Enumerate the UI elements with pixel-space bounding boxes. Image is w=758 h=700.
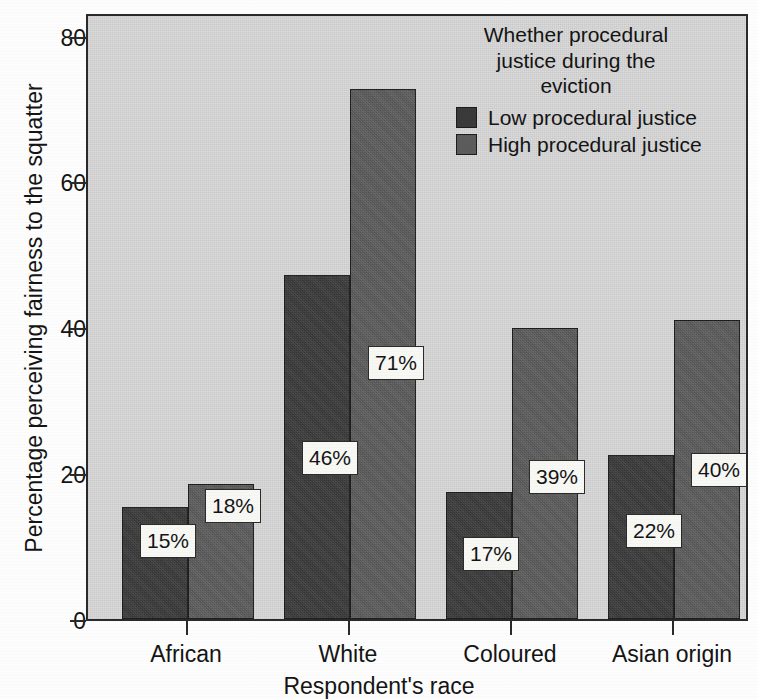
x-axis-title: Respondent's race [0,673,758,700]
x-tick-mark-asian-origin [672,621,674,635]
legend-label-high: High procedural justice [488,134,702,155]
legend-title-line-1: Whether procedural [412,22,740,48]
plot-area: 15% 18% 46% 71% 17% 39% 22% 40% Whether … [86,14,748,621]
y-axis: Percentage perceiving fairness to the sq… [0,14,86,621]
legend-title-line-2: justice during the [412,48,740,74]
legend-swatch-low-icon [456,107,477,128]
y-tick-mark-0 [70,620,86,622]
x-tick-mark-white [348,621,350,635]
y-tick-mark-80 [70,37,86,39]
legend-label-low: Low procedural justice [488,107,697,128]
value-label-african-high: 18% [205,489,261,523]
legend-item-high[interactable]: High procedural justice [408,134,744,155]
x-tick-label-white: White [319,641,378,668]
value-label-african-low: 15% [140,524,196,558]
y-tick-mark-20 [70,474,86,476]
x-tick-label-asian-origin: Asian origin [612,641,732,668]
x-tick-mark-african [186,621,188,635]
value-label-white-high: 71% [368,346,424,380]
legend: Whether procedural justice during the ev… [408,16,744,155]
value-label-asian-low: 22% [626,514,682,548]
x-tick-label-coloured: Coloured [463,641,556,668]
legend-item-low[interactable]: Low procedural justice [408,107,744,128]
y-tick-mark-40 [70,328,86,330]
legend-title: Whether procedural justice during the ev… [408,16,744,101]
value-label-coloured-low: 17% [463,537,519,571]
value-label-white-low: 46% [302,441,358,475]
legend-title-line-3: eviction [412,73,740,99]
x-tick-mark-coloured [510,621,512,635]
y-tick-mark-60 [70,182,86,184]
x-tick-label-african: African [150,641,222,668]
value-label-coloured-high: 39% [529,460,585,494]
legend-swatch-high-icon [456,134,477,155]
value-label-asian-high: 40% [691,453,747,487]
